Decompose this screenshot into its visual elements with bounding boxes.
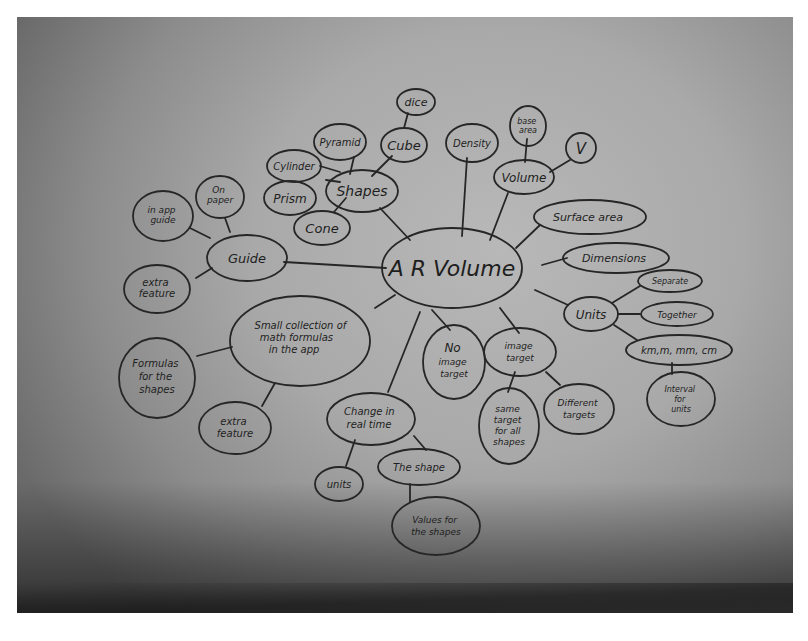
node-change-real-time: Change in real time xyxy=(344,406,398,430)
node-on-paper: On paper xyxy=(206,185,234,205)
node-together: Together xyxy=(657,310,698,320)
node-guide: Guide xyxy=(228,251,266,266)
node-extra-feature-guide: extra feature xyxy=(139,277,175,299)
node-density: Density xyxy=(453,138,492,149)
node-volume: Volume xyxy=(502,171,547,185)
node-surface-area: Surface area xyxy=(553,211,623,224)
node-same-target: same target for all shapes xyxy=(493,404,525,447)
mind-map-photo: A R Volume Shapes Cylinder Pyramid Cube … xyxy=(17,17,793,613)
node-in-app-guide: in app guide xyxy=(148,205,179,225)
node-units-realtime: units xyxy=(327,479,352,490)
node-shapes: Shapes xyxy=(336,183,387,199)
node-formulas-shapes: Formulas for the shapes xyxy=(132,358,181,395)
node-image-target: image target xyxy=(505,341,536,363)
node-interval-units: Interval for units xyxy=(664,385,697,414)
node-formulas-collection: Small collection of math formulas in the… xyxy=(255,320,350,355)
node-no-image-target: No image target xyxy=(439,341,470,379)
node-center: A R Volume xyxy=(387,256,516,281)
node-outlines xyxy=(119,89,732,555)
node-cylinder: Cylinder xyxy=(273,161,315,172)
node-different-targets: Different targets xyxy=(558,398,601,420)
node-cube: Cube xyxy=(387,138,421,153)
node-units: Units xyxy=(576,308,607,322)
node-prism: Prism xyxy=(273,192,306,206)
node-cone: Cone xyxy=(305,221,338,236)
node-dice: dice xyxy=(405,96,428,109)
node-dimensions: Dimensions xyxy=(582,252,646,265)
node-km-m-mm-cm: km,m, mm, cm xyxy=(641,345,717,356)
node-pyramid: Pyramid xyxy=(319,137,361,148)
photo-shadow-edge xyxy=(17,583,793,613)
node-values-shapes: Values for the shapes xyxy=(411,515,461,537)
node-extra-feature-formulas: extra feature xyxy=(217,416,253,439)
node-the-shape: The shape xyxy=(393,462,445,473)
mind-map-diagram: A R Volume Shapes Cylinder Pyramid Cube … xyxy=(17,17,793,613)
node-base-area: base area xyxy=(517,117,539,135)
node-v: V xyxy=(576,140,588,158)
node-separate: Separate xyxy=(652,277,688,286)
